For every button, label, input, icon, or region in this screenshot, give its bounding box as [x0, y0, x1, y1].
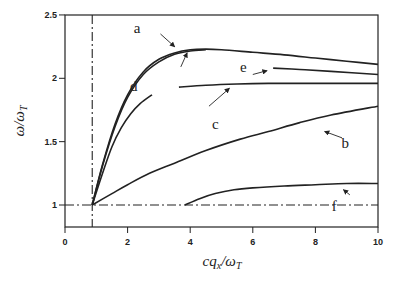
- x-axis-ticks: 0246810: [62, 227, 383, 247]
- y-axis-ticks: 11.522.5: [44, 10, 65, 210]
- arrow-icon: [325, 132, 342, 138]
- plot-frame: [65, 15, 378, 227]
- curve-label-d: d: [130, 78, 138, 94]
- x-tick-label: 0: [62, 237, 67, 247]
- curve-label-c: c: [212, 116, 219, 132]
- x-tick-label: 2: [125, 237, 130, 247]
- x-tick-label: 10: [373, 237, 383, 247]
- arrow-icon: [181, 53, 187, 67]
- y-tick-label: 2: [52, 73, 57, 83]
- curve-d-upper: [92, 50, 206, 205]
- x-axis-title: cqx/ωT: [203, 253, 243, 271]
- y-tick-label: 1: [52, 200, 57, 210]
- arrow-icon: [253, 71, 267, 75]
- arrow-icon: [344, 190, 350, 195]
- x-tick-label: 4: [188, 237, 193, 247]
- dispersion-chart: adcebf 0246810 11.522.5 cqx/ωT ω/ωT: [0, 0, 394, 285]
- curve-label-a: a: [134, 20, 141, 36]
- reference-lines: [65, 15, 378, 227]
- x-tick-label: 6: [250, 237, 255, 247]
- curve-e: [273, 68, 378, 74]
- curve-label-f: f: [332, 198, 337, 214]
- curve-label-b: b: [341, 135, 349, 151]
- curves: [92, 49, 378, 205]
- arrow-icon: [160, 34, 174, 47]
- curve-c: [179, 83, 378, 87]
- arrow-icon: [209, 88, 229, 106]
- x-tick-label: 8: [313, 237, 318, 247]
- y-tick-label: 1.5: [44, 137, 57, 147]
- curve-a: [92, 49, 378, 205]
- y-tick-label: 2.5: [44, 10, 57, 20]
- y-axis-title: ω/ωT: [11, 104, 29, 136]
- curve-label-e: e: [240, 59, 247, 75]
